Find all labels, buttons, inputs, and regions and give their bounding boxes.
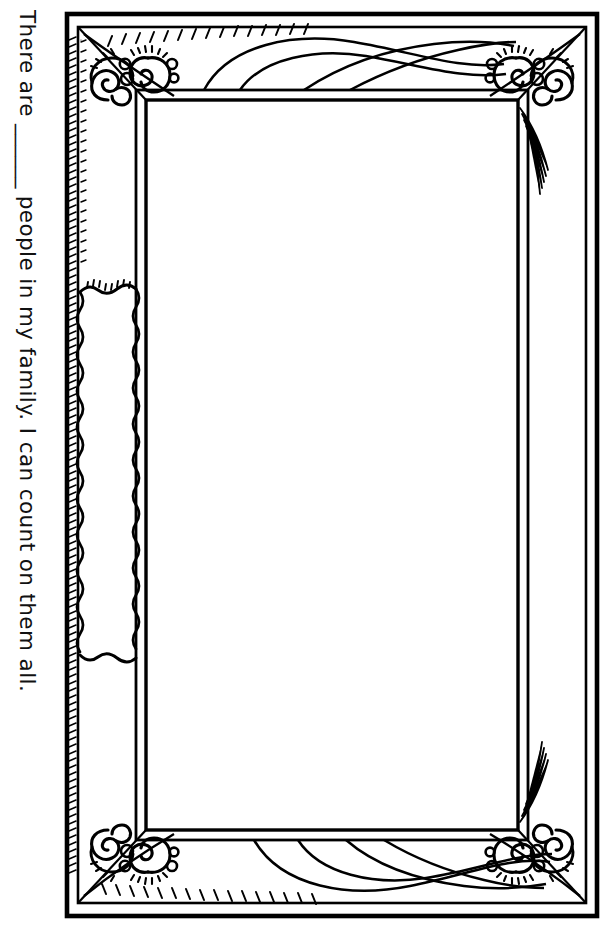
frame-illustration <box>54 0 614 926</box>
fill-in-blank[interactable]: ______ <box>15 124 40 189</box>
ornate-picture-frame <box>54 0 614 926</box>
wavy-edged-cartouche[interactable] <box>77 280 139 662</box>
family-count-prompt: There are ______ people in my family. I … <box>17 10 39 692</box>
caption-area: There are ______ people in my family. I … <box>0 0 46 926</box>
caption-after-blank: people in my family. I can count on them… <box>15 189 40 693</box>
caption-before-blank: There are <box>15 10 40 124</box>
picture-opening <box>146 100 518 830</box>
worksheet-page: There are ______ people in my family. I … <box>0 0 614 926</box>
